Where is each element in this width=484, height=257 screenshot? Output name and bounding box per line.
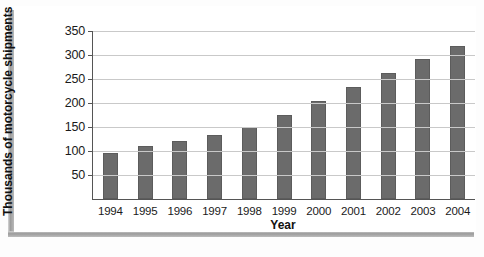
y-axis-title: Thousands of motorcycle shipments [1,16,17,216]
gridline [93,175,475,176]
y-axis-tick-label: 150 [65,120,85,134]
bar-slot: 1999 [267,31,302,199]
bar-slot: 2004 [440,31,475,199]
y-axis-tick-label: 50 [71,168,85,182]
x-axis-tick-label: 1995 [133,205,158,217]
x-axis-tick-label: 1997 [202,205,227,217]
bar-slot: 2003 [406,31,441,199]
bar[interactable] [242,127,257,199]
y-axis-tick-mark [88,79,92,80]
x-axis-tick-label: 2004 [445,205,470,217]
gridline [93,151,475,152]
chart-panel: Thousands of motorcycle shipments 199419… [14,6,476,232]
bar[interactable] [138,146,153,199]
bar-slot: 1995 [128,31,163,199]
x-axis-tick-label: 1999 [272,205,297,217]
gridline [93,127,475,128]
y-axis-tick-label: 300 [65,48,85,62]
bar-slot: 1994 [93,31,128,199]
bar-series: 1994199519961997199819992000200120022003… [93,31,475,199]
bar-slot: 1996 [162,31,197,199]
y-axis-tick-label: 200 [65,96,85,110]
gridline [93,79,475,80]
chart-figure: Thousands of motorcycle shipments 199419… [0,0,484,257]
bar-slot: 1997 [197,31,232,199]
bar-slot: 2000 [301,31,336,199]
gridline [93,55,475,56]
x-axis-tick-label: 2001 [341,205,366,217]
y-axis-tick-mark [88,127,92,128]
bar[interactable] [381,73,396,199]
bar-slot: 2001 [336,31,371,199]
y-axis-tick-label: 100 [65,144,85,158]
plot-area: 1994199519961997199819992000200120022003… [92,31,475,200]
x-axis-tick-label: 2003 [411,205,436,217]
bar[interactable] [415,59,430,199]
gridline [93,31,475,32]
bar[interactable] [207,135,222,199]
x-axis-tick-label: 1994 [98,205,123,217]
gridline [93,103,475,104]
y-axis-tick-mark [88,31,92,32]
bar-slot: 2002 [371,31,406,199]
y-axis-tick-label: 250 [65,72,85,86]
x-axis-title: Year [92,218,474,232]
y-axis-tick-mark [88,55,92,56]
y-axis-tick-mark [88,175,92,176]
bar[interactable] [450,46,465,199]
bar-slot: 1998 [232,31,267,199]
y-axis-tick-mark [88,103,92,104]
x-axis-tick-label: 1998 [237,205,262,217]
y-axis-tick-label: 350 [65,24,85,38]
y-axis-tick-mark [88,151,92,152]
bar[interactable] [311,101,326,199]
x-axis-tick-label: 2000 [306,205,331,217]
x-axis-tick-label: 2002 [376,205,401,217]
x-axis-tick-label: 1996 [167,205,192,217]
